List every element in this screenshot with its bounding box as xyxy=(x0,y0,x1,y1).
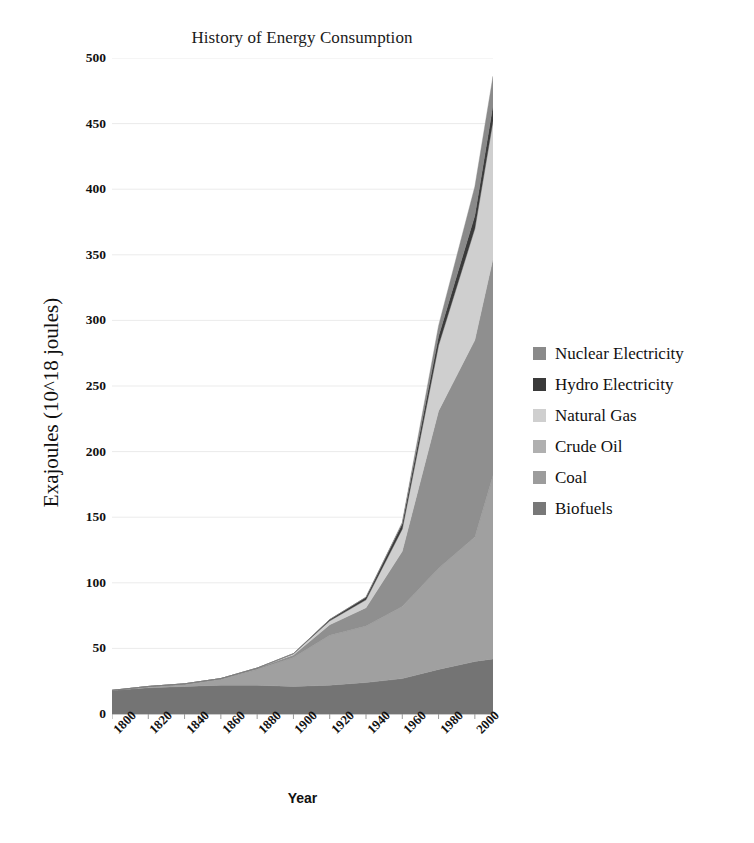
x-tick-label: 1940 xyxy=(364,708,394,738)
x-tick-label: 1980 xyxy=(437,708,467,738)
legend-item[interactable]: Biofuels xyxy=(533,493,748,524)
x-tick-label: 1860 xyxy=(219,708,249,738)
chart-legend: Nuclear ElectricityHydro ElectricityNatu… xyxy=(533,338,748,524)
legend-item-label: Crude Oil xyxy=(555,438,623,455)
x-tick-label: 1840 xyxy=(183,708,213,738)
legend-item[interactable]: Coal xyxy=(533,462,748,493)
x-tick-label: 2000 xyxy=(473,708,503,738)
x-tick-label: 1900 xyxy=(291,708,321,738)
legend-item-label: Natural Gas xyxy=(555,407,637,424)
legend-item[interactable]: Natural Gas xyxy=(533,400,748,431)
x-axis-title: Year xyxy=(112,790,493,806)
legend-item[interactable]: Crude Oil xyxy=(533,431,748,462)
legend-swatch-icon xyxy=(533,378,546,391)
chart-canvas: History of Energy Consumption Exajoules … xyxy=(0,0,754,843)
x-tick-label: 1880 xyxy=(255,708,285,738)
legend-item-label: Hydro Electricity xyxy=(555,376,674,393)
legend-item-label: Biofuels xyxy=(555,500,613,517)
legend-swatch-icon xyxy=(533,471,546,484)
x-tick-label: 1820 xyxy=(146,708,176,738)
legend-item-label: Coal xyxy=(555,469,587,486)
legend-swatch-icon xyxy=(533,409,546,422)
legend-item[interactable]: Nuclear Electricity xyxy=(533,338,748,369)
legend-swatch-icon xyxy=(533,347,546,360)
legend-swatch-icon xyxy=(533,440,546,453)
legend-swatch-icon xyxy=(533,502,546,515)
x-tick-label: 1960 xyxy=(400,708,430,738)
x-tick-label: 1800 xyxy=(110,708,140,738)
legend-item[interactable]: Hydro Electricity xyxy=(533,369,748,400)
x-tick-label: 1920 xyxy=(328,708,358,738)
legend-item-label: Nuclear Electricity xyxy=(555,345,684,362)
